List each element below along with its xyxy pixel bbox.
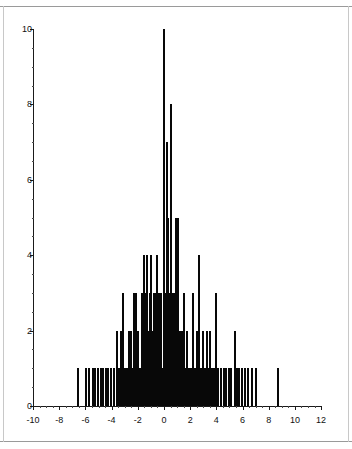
- x-tick-minor: [72, 406, 73, 408]
- figure-container: 0246810 -10-8-6-4-2024681012: [0, 0, 352, 449]
- x-tick-label: 6: [240, 415, 245, 425]
- x-tick-major: [33, 406, 34, 410]
- spike-histogram-plot: 0246810 -10-8-6-4-2024681012: [0, 0, 352, 449]
- x-tick-minor: [177, 406, 178, 408]
- x-tick-minor: [249, 406, 250, 408]
- x-tick-label: -10: [27, 415, 40, 425]
- x-tick-major: [216, 406, 217, 410]
- x-tick-major: [295, 406, 296, 410]
- x-tick-major: [321, 406, 322, 410]
- x-tick-minor: [288, 406, 289, 408]
- histogram-bar: [77, 368, 79, 406]
- x-tick-minor: [275, 406, 276, 408]
- x-tick-minor: [262, 406, 263, 408]
- x-tick-label: 2: [188, 415, 193, 425]
- x-tick-major: [243, 406, 244, 410]
- y-tick-minor: [32, 312, 34, 313]
- y-tick-label: 2: [10, 326, 32, 336]
- x-tick-minor: [131, 406, 132, 408]
- x-tick-major: [190, 406, 191, 410]
- x-tick-minor: [92, 406, 93, 408]
- y-tick-minor: [32, 86, 34, 87]
- y-tick-label: 8: [10, 99, 32, 109]
- histogram-bar: [113, 368, 115, 406]
- x-tick-minor: [79, 406, 80, 408]
- x-tick-minor: [171, 406, 172, 408]
- x-tick-minor: [203, 406, 204, 408]
- x-tick-minor: [282, 406, 283, 408]
- histogram-bar: [88, 368, 90, 406]
- x-tick-minor: [308, 406, 309, 408]
- x-tick-minor: [256, 406, 257, 408]
- y-tick-minor: [32, 387, 34, 388]
- y-tick-label: 10: [10, 24, 32, 34]
- x-tick-major: [112, 406, 113, 410]
- x-tick-minor: [66, 406, 67, 408]
- y-tick-minor: [32, 142, 34, 143]
- x-tick-minor: [197, 406, 198, 408]
- y-tick-label: 4: [10, 250, 32, 260]
- x-tick-minor: [151, 406, 152, 408]
- y-tick-minor: [32, 293, 34, 294]
- y-tick-minor: [32, 368, 34, 369]
- x-tick-label: -4: [108, 415, 116, 425]
- x-tick-minor: [105, 406, 106, 408]
- bars-layer: [0, 0, 352, 449]
- y-tick-minor: [32, 349, 34, 350]
- y-tick-label: 0: [10, 401, 32, 411]
- x-tick-label: -6: [81, 415, 89, 425]
- x-tick-label: -2: [134, 415, 142, 425]
- x-tick-minor: [125, 406, 126, 408]
- x-tick-major: [59, 406, 60, 410]
- x-tick-major: [138, 406, 139, 410]
- x-tick-minor: [210, 406, 211, 408]
- x-tick-minor: [53, 406, 54, 408]
- x-tick-label: 4: [214, 415, 219, 425]
- y-tick-minor: [32, 67, 34, 68]
- histogram-bar: [255, 368, 257, 406]
- x-tick-minor: [40, 406, 41, 408]
- histogram-bar: [241, 368, 243, 406]
- y-tick-minor: [32, 161, 34, 162]
- histogram-bar: [230, 368, 232, 406]
- histogram-bar: [244, 368, 246, 406]
- y-tick-minor: [32, 123, 34, 124]
- histogram-bar: [277, 368, 279, 406]
- x-tick-minor: [157, 406, 158, 408]
- y-tick-label: 6: [10, 175, 32, 185]
- histogram-bar: [251, 368, 253, 406]
- y-tick-minor: [32, 48, 34, 49]
- x-tick-minor: [229, 406, 230, 408]
- x-tick-major: [85, 406, 86, 410]
- x-tick-minor: [315, 406, 316, 408]
- x-tick-minor: [118, 406, 119, 408]
- x-tick-label: 8: [266, 415, 271, 425]
- y-tick-minor: [32, 274, 34, 275]
- x-tick-minor: [46, 406, 47, 408]
- x-tick-label: 12: [316, 415, 326, 425]
- x-tick-label: 0: [161, 415, 166, 425]
- x-tick-major: [164, 406, 165, 410]
- x-tick-minor: [223, 406, 224, 408]
- x-tick-minor: [236, 406, 237, 408]
- x-tick-label: -8: [55, 415, 63, 425]
- x-tick-minor: [99, 406, 100, 408]
- y-tick-minor: [32, 199, 34, 200]
- x-tick-minor: [144, 406, 145, 408]
- x-tick-label: 10: [290, 415, 300, 425]
- histogram-bar: [247, 368, 249, 406]
- x-tick-minor: [301, 406, 302, 408]
- y-tick-minor: [32, 236, 34, 237]
- x-tick-major: [269, 406, 270, 410]
- x-tick-minor: [184, 406, 185, 408]
- y-tick-minor: [32, 218, 34, 219]
